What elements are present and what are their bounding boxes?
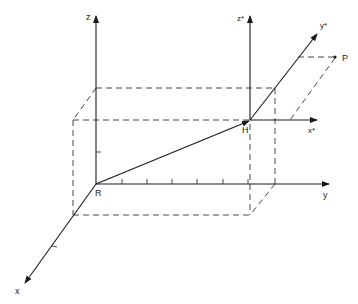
origin-h-label: H [242, 125, 249, 135]
x-tick [52, 246, 57, 247]
point-p-label: P [342, 53, 348, 63]
diagram: z y x R H z* y* x* P [0, 0, 358, 304]
z-axis-label: z [86, 12, 91, 22]
y-star-axis-label: y* [320, 21, 327, 30]
x-star-axis-label: x* [308, 126, 315, 135]
z-star-axis-label: z* [237, 14, 244, 23]
origin-r-label: R [95, 188, 102, 198]
box-bottom-right-diagonal [250, 184, 275, 215]
p-projection-to-x-star [290, 58, 335, 120]
r-to-h-vector [96, 121, 249, 184]
y-axis-ticks [122, 179, 248, 184]
point-p [333, 55, 336, 58]
x-axis-label: x [15, 286, 20, 296]
box-top-left-diagonal [73, 88, 96, 120]
diagram-canvas: z y x R H z* y* x* P [0, 0, 358, 304]
y-axis-label: y [323, 190, 328, 200]
y-star-axis [250, 34, 317, 120]
x-axis [25, 184, 96, 283]
